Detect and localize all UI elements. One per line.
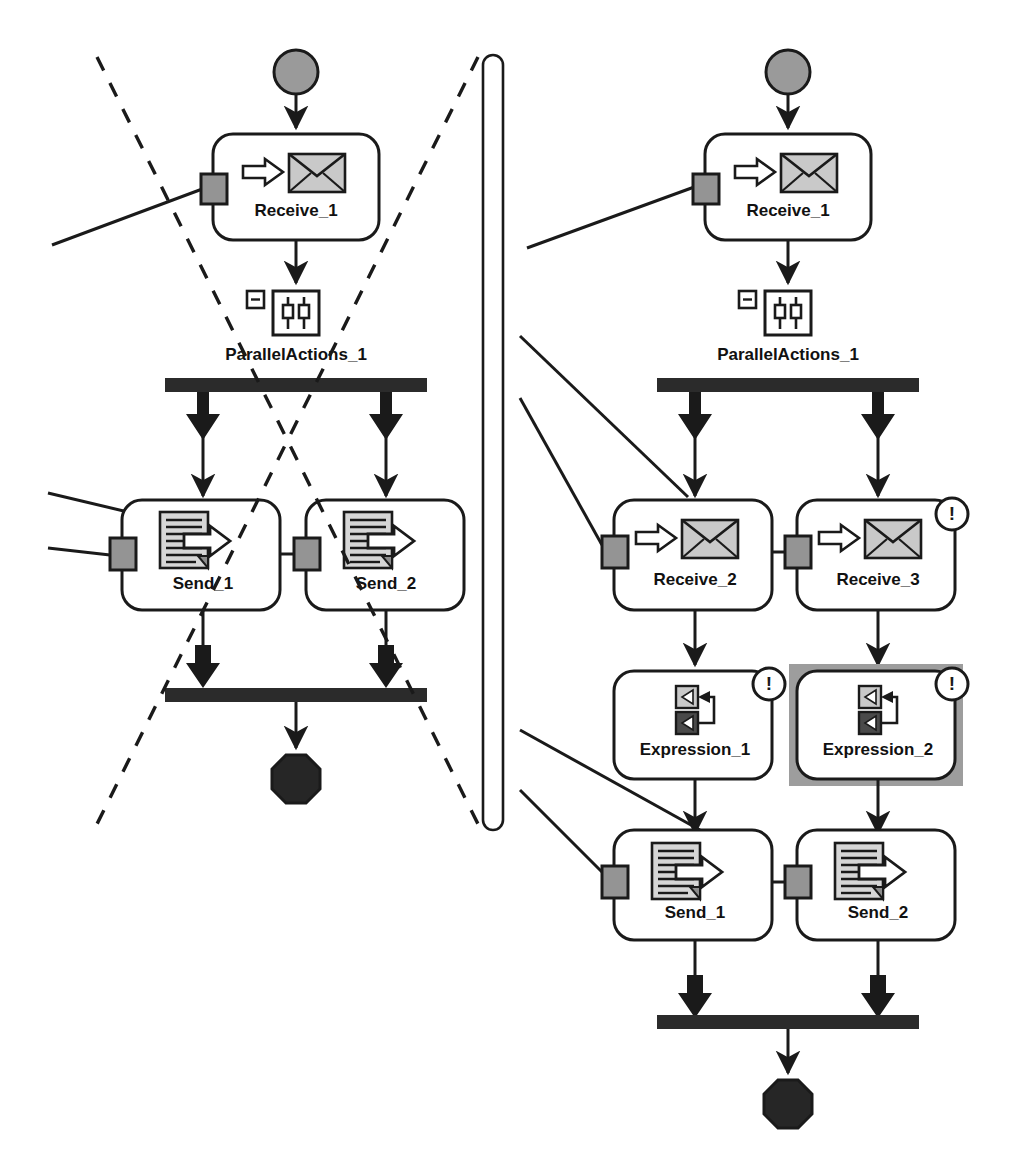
node-port[interactable] (602, 536, 628, 568)
end-octagon-icon[interactable] (272, 755, 320, 803)
node-port[interactable] (785, 536, 811, 568)
warning-badge-glyph: ! (949, 673, 955, 694)
node-label: Send_2 (356, 574, 416, 593)
warning-badge[interactable]: ! (936, 668, 968, 700)
right-workflow-panel[interactable]: Receive_1 ParallelActions_1 Receive_2 (520, 50, 968, 1128)
node-r-send-1[interactable]: Send_1 (602, 830, 772, 940)
node-r-receive-3[interactable]: Receive_3 ! (772, 498, 968, 610)
node-label: Receive_1 (254, 201, 337, 220)
node-r-send-2[interactable]: Send_2 (772, 830, 955, 940)
node-label: Send_1 (173, 574, 233, 593)
node-label: ParallelActions_1 (717, 345, 859, 364)
node-r-expression-1[interactable]: Expression_1 ! (614, 668, 785, 779)
warning-badge[interactable]: ! (753, 668, 785, 700)
node-label: Expression_2 (823, 740, 934, 759)
node-l-send-1[interactable]: Send_1 (110, 500, 280, 610)
join-bar (165, 688, 427, 702)
node-r-parallel-1[interactable]: ParallelActions_1 (717, 291, 859, 364)
panel-divider (483, 55, 503, 830)
node-port[interactable] (201, 174, 227, 204)
node-port[interactable] (785, 866, 811, 898)
fork-bar (657, 378, 919, 392)
node-label: Send_2 (848, 903, 908, 922)
node-port[interactable] (602, 866, 628, 898)
node-label: Send_1 (665, 903, 725, 922)
fork-bar (165, 378, 427, 392)
node-label: Expression_1 (640, 740, 751, 759)
diagram-canvas: Receive_1 ParallelActions_1 Send_1 (0, 0, 1013, 1151)
node-r-expression-2[interactable]: Expression_2 ! (789, 664, 968, 786)
node-port[interactable] (294, 538, 320, 570)
join-bar (657, 1015, 919, 1029)
node-r-receive-2[interactable]: Receive_2 (602, 500, 772, 610)
node-l-receive-1[interactable]: Receive_1 (201, 134, 379, 240)
left-workflow-panel[interactable]: Receive_1 ParallelActions_1 Send_1 (48, 50, 478, 824)
node-label: Receive_2 (653, 570, 736, 589)
node-label: Receive_1 (746, 201, 829, 220)
node-l-parallel-1[interactable]: ParallelActions_1 (225, 291, 367, 364)
node-l-send-2[interactable]: Send_2 (280, 500, 464, 610)
warning-badge-glyph: ! (766, 673, 772, 694)
start-circle-icon[interactable] (274, 50, 318, 94)
node-port[interactable] (110, 538, 136, 570)
start-circle-icon[interactable] (766, 50, 810, 94)
node-label: Receive_3 (836, 570, 919, 589)
end-octagon-icon[interactable] (764, 1080, 812, 1128)
node-port[interactable] (693, 174, 719, 204)
node-r-receive-1[interactable]: Receive_1 (693, 134, 871, 240)
warning-badge-glyph: ! (949, 503, 955, 524)
warning-badge[interactable]: ! (936, 498, 968, 530)
